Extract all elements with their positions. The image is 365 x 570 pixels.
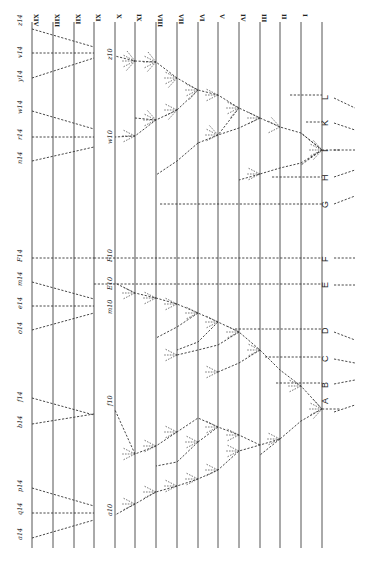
svg-text:I: I: [320, 149, 330, 152]
svg-text:m14: m14: [16, 272, 24, 286]
svg-text:z14: z14: [16, 14, 24, 27]
svg-text:VII: VII: [178, 13, 185, 24]
svg-text:H: H: [320, 175, 330, 182]
svg-text:n14: n14: [16, 152, 24, 164]
gen10-labels: z10 w10 F10 E10 m10 f10 a10: [106, 48, 114, 516]
svg-text:z10: z10: [106, 48, 114, 61]
svg-text:m10: m10: [106, 300, 114, 314]
svg-text:XII: XII: [75, 14, 82, 24]
svg-text:f14: f14: [16, 391, 24, 403]
svg-text:XI: XI: [95, 14, 102, 22]
svg-text:p14: p14: [16, 480, 24, 492]
svg-text:L: L: [320, 95, 330, 100]
base-species-labels: A B C D E F G H I K L: [320, 95, 355, 412]
svg-text:IX: IX: [136, 14, 143, 22]
svg-text:XIV: XIV: [33, 14, 40, 26]
svg-text:III: III: [261, 14, 268, 23]
svg-text:v14: v14: [16, 46, 24, 58]
svg-text:V: V: [219, 13, 226, 19]
svg-text:C: C: [320, 355, 330, 362]
svg-text:IV: IV: [240, 14, 247, 22]
svg-text:A: A: [320, 398, 330, 404]
svg-text:B: B: [320, 382, 330, 388]
svg-text:VIII: VIII: [157, 13, 164, 27]
svg-text:XIII: XIII: [54, 14, 61, 27]
generation-lines: [32, 22, 322, 548]
descent-lines: [94, 56, 340, 515]
svg-text:D: D: [320, 327, 330, 334]
svg-text:F14: F14: [16, 249, 24, 263]
svg-text:q14: q14: [16, 503, 24, 515]
svg-text:a14: a14: [16, 528, 24, 540]
variation-fans: [122, 51, 322, 510]
phylogeny-diagram: XIV XIII XII XI X IX VIII VII VI V IV II…: [0, 0, 365, 570]
svg-text:I: I: [302, 14, 309, 17]
svg-text:b14: b14: [16, 416, 24, 428]
svg-text:X: X: [116, 14, 123, 19]
svg-text:F: F: [320, 256, 330, 262]
svg-text:VI: VI: [199, 13, 206, 22]
svg-text:r14: r14: [16, 129, 24, 140]
svg-text:II: II: [281, 14, 288, 20]
gen14-labels: z14 v14 y14 w14 r14 n14 F14 m14 e14 o14 …: [16, 14, 24, 540]
svg-text:e14: e14: [16, 297, 24, 309]
svg-text:f10: f10: [106, 395, 114, 407]
svg-text:F10: F10: [106, 249, 114, 263]
svg-text:E: E: [320, 282, 330, 288]
svg-text:y14: y14: [16, 70, 24, 83]
svg-text:a10: a10: [106, 504, 114, 516]
svg-text:G: G: [320, 201, 330, 208]
svg-text:w14: w14: [16, 100, 24, 114]
gen11-to-14-branches: [32, 29, 94, 538]
svg-text:o14: o14: [16, 322, 24, 334]
svg-text:w10: w10: [106, 130, 114, 144]
svg-text:K: K: [320, 120, 330, 126]
